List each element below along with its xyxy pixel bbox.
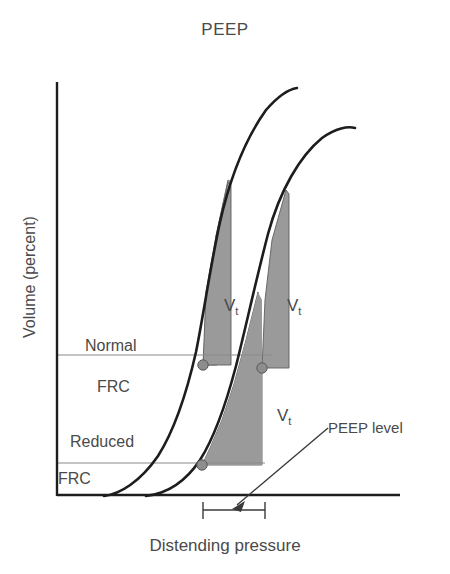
vt-symbol: V xyxy=(287,296,298,315)
vt-symbol: V xyxy=(224,296,235,315)
frc-upper-label: FRC xyxy=(97,378,130,396)
reduced-frc-label: Reduced xyxy=(70,433,134,451)
peep-frc-point xyxy=(257,363,267,373)
vt-symbol: V xyxy=(277,406,288,425)
reduced-frc-point xyxy=(197,460,207,470)
tidal-volume-peep-outline xyxy=(262,190,289,368)
y-axis-label: Volume (percent) xyxy=(21,177,39,377)
tidal-volume-label-peep: Vt xyxy=(287,296,301,317)
vt-subscript: t xyxy=(288,415,291,427)
tidal-volume-label-reduced: Vt xyxy=(277,406,291,427)
peep-level-label: PEEP level xyxy=(328,419,403,436)
frc-lower-label: FRC xyxy=(58,470,91,488)
tidal-volume-label-normal: Vt xyxy=(224,296,238,317)
tidal-volume-normal-outline xyxy=(203,182,231,365)
chart-title: PEEP xyxy=(0,20,450,40)
vt-subscript: t xyxy=(235,305,238,317)
x-axis-label: Distending pressure xyxy=(0,536,450,556)
vt-subscript: t xyxy=(298,305,301,317)
normal-frc-point xyxy=(198,360,208,370)
normal-frc-label: Normal xyxy=(85,337,137,355)
